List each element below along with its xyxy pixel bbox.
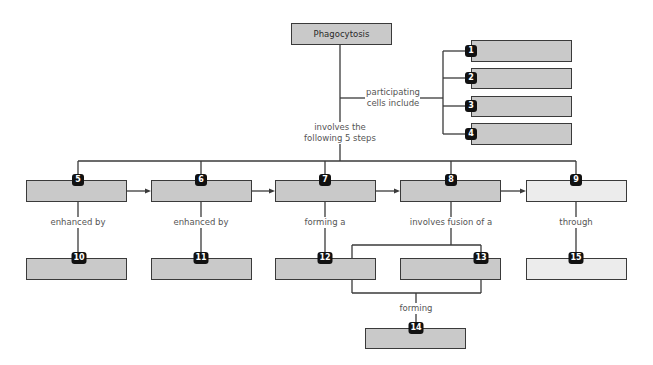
number-badge-2: 2 [465,72,477,84]
number-badge-4: 4 [465,128,477,140]
connector-label-enhanced-by-5: enhanced by [48,217,107,228]
number-badge-8: 8 [445,174,457,186]
number-badge-14: 14 [409,322,424,334]
number-badge-13: 13 [474,252,489,264]
phagocytosis-concept-map: Phagocytosis participating cells include… [0,0,653,365]
cell-box-3[interactable] [471,96,572,117]
cell-box-4[interactable] [471,123,572,145]
connector-label-through: through [557,217,594,228]
steps-label: involves the following 5 steps [302,122,378,144]
phagocytosis-label: Phagocytosis [314,29,370,39]
number-badge-6: 6 [195,174,207,186]
number-badge-15: 15 [569,252,584,264]
participating-cells-label: participating cells include [364,87,422,109]
number-badge-11: 11 [194,252,209,264]
connector-label-involves-fusion: involves fusion of a [408,217,494,228]
connector-label-forming-a: forming a [303,217,348,228]
number-badge-1: 1 [465,45,477,57]
number-badge-5: 5 [72,174,84,186]
connector-label-enhanced-by-6: enhanced by [171,217,230,228]
number-badge-9: 9 [570,174,582,186]
number-badge-7: 7 [319,174,331,186]
connector-label-forming: forming [398,303,435,314]
number-badge-3: 3 [465,100,477,112]
number-badge-12: 12 [318,252,333,264]
phagocytosis-box: Phagocytosis [291,23,392,45]
cell-box-2[interactable] [471,68,572,89]
number-badge-10: 10 [72,252,87,264]
cell-box-1[interactable] [471,40,572,62]
